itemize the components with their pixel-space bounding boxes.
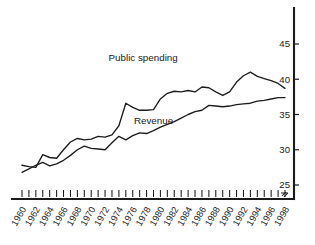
x-tick-label-1998: 1998 [272, 205, 291, 228]
y-tick-label-35: 35 [279, 109, 290, 120]
chart-container: 1960196219641966196819701972197419761978… [0, 0, 315, 245]
revenue-series-label: Revenue [134, 115, 174, 126]
y-tick-label-25: 25 [279, 179, 290, 190]
x-axis-tick-labels: 1960196219641966196819701972197419761978… [9, 205, 291, 228]
y-tick-label-30: 30 [279, 144, 290, 155]
public-spending-series-label: Public spending [109, 52, 178, 63]
y-tick-label-40: 40 [279, 74, 290, 85]
line-chart: 1960196219641966196819701972197419761978… [0, 0, 315, 245]
x-axis-ticks [22, 190, 285, 197]
y-axis-tick-labels: 2530354045 [279, 38, 290, 190]
y-tick-label-45: 45 [279, 38, 290, 49]
